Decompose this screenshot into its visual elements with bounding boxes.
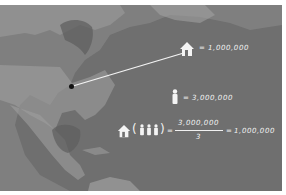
equation-denominator: 3 xyxy=(196,133,201,141)
equation-equals-2: = xyxy=(226,127,232,135)
house-value: 1,000,000 xyxy=(208,44,249,52)
close-paren: ) xyxy=(160,122,165,136)
person-icon xyxy=(146,123,152,137)
equation-equals-1: = xyxy=(167,127,173,135)
house-icon xyxy=(179,41,195,57)
house-icon xyxy=(117,124,131,138)
person-icon xyxy=(171,89,179,105)
north-america-map xyxy=(0,5,282,191)
location-marker-icon xyxy=(69,84,74,89)
person-icon xyxy=(153,123,159,137)
equation-numerator: 3,000,000 xyxy=(178,119,219,127)
fraction-line xyxy=(175,130,223,131)
open-paren: ( xyxy=(132,122,137,136)
infographic-map: = 1,000,000 = 3,000,000 ( ) = 3,000,000 … xyxy=(0,5,282,191)
person-icon xyxy=(139,123,145,137)
equation-result: 1,000,000 xyxy=(234,127,275,135)
house-equals: = xyxy=(199,44,205,52)
person-equals: = xyxy=(183,94,189,102)
person-value: 3,000,000 xyxy=(192,94,233,102)
